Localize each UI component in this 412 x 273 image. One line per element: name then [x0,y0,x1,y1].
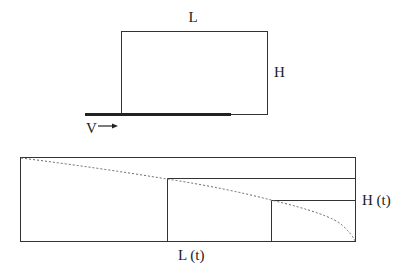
outer-rectangle [21,158,356,242]
top-rectangle [122,32,268,115]
length-label: L [188,9,197,25]
velocity-arrow-icon [98,124,118,129]
decay-curve [21,158,355,241]
height-label: H [274,64,285,80]
velocity-label: V [86,120,97,136]
height-t-label: H (t) [362,192,391,209]
top-diagram: L H V [85,9,285,136]
inner-rectangle-1 [168,179,356,242]
inner-rectangle-2 [272,201,356,242]
bottom-diagram: H (t) L (t) [21,158,391,265]
length-t-label: L (t) [178,247,205,264]
diagram-canvas: L H V H (t) L (t) [0,0,412,273]
diagram-svg: L H V H (t) L (t) [0,0,412,273]
